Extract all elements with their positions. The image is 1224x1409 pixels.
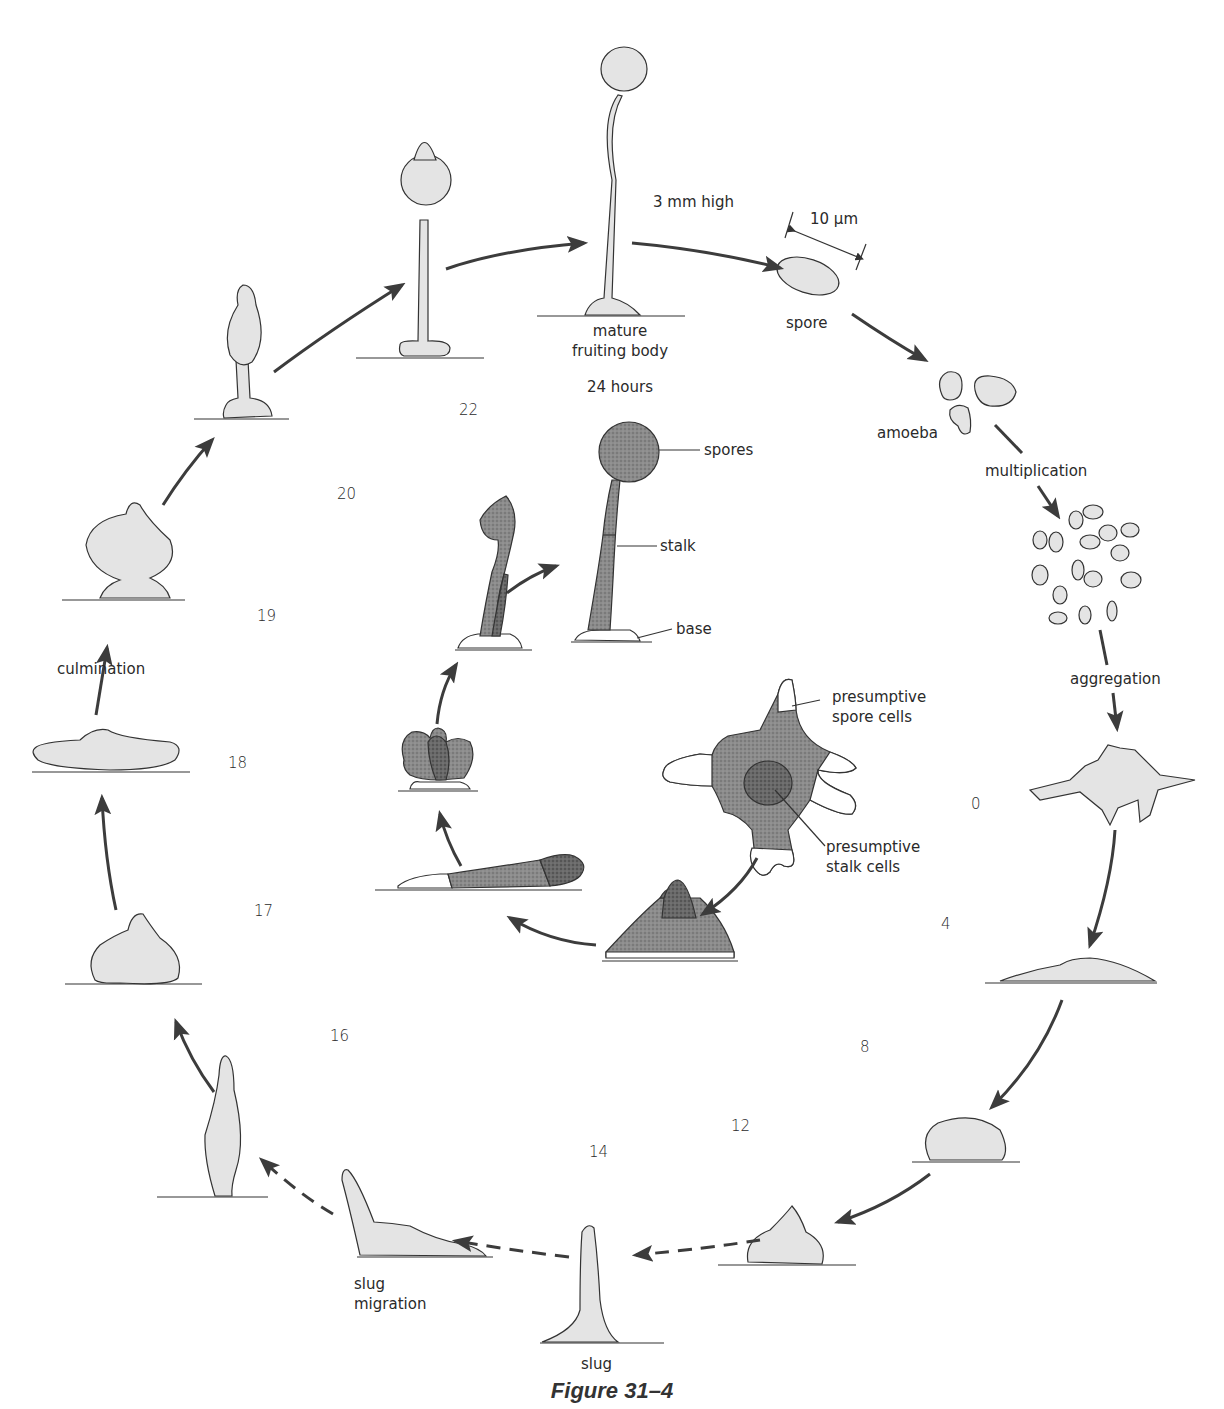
hour-14: 14 [589,1143,608,1161]
height-label: 3 mm high [653,193,734,211]
stage-4 [985,958,1157,983]
stage-12 [718,1206,856,1265]
time-24-hours: 24 hours [560,378,680,396]
stage-18 [32,729,190,772]
stalk-label: stalk [660,537,696,555]
hour-4: 4 [941,915,951,933]
hour-8: 8 [860,1038,870,1056]
presumptive-spore-label-line2: spore cells [832,708,912,726]
amoeba-label: amoeba [877,424,938,442]
culmination-label: culmination [57,660,145,678]
hour-20: 20 [337,485,356,503]
hour-12: 12 [731,1117,750,1135]
stage-20 [194,285,289,419]
base-label: base [676,620,712,638]
hour-18: 18 [228,754,247,772]
slug-migration-label-line2: migration [354,1295,426,1313]
stage-8 [912,1118,1020,1162]
stage-mature-fruiting-body [537,47,685,316]
mature-label-line1: mature [560,322,680,340]
stage-slug [540,1226,664,1343]
stage-22 [356,143,484,359]
spore-label: spore [786,314,828,332]
stage-multiplied-amoebae [1032,505,1141,624]
slug-label: slug [581,1355,612,1373]
stage-19 [62,503,185,600]
stage-17 [65,914,202,984]
life-cycle-diagram [0,0,1224,1409]
figure-caption: Figure 31–4 [0,1378,1224,1404]
aggregation-label: aggregation [1070,670,1161,688]
mature-label-line2: fruiting body [550,342,690,360]
spores-label: spores [704,441,753,459]
presumptive-stalk-label-line1: presumptive [826,838,920,856]
inner-tipped-mound [602,880,738,961]
hour-17: 17 [254,902,273,920]
stage-aggregation-streams [1030,745,1195,825]
inner-mature-fruiting-body [571,422,700,642]
stage-amoebae [940,372,1016,434]
multiplication-label: multiplication [985,462,1087,480]
inner-mexican-hat [398,728,478,791]
hour-0: 0 [971,795,981,813]
stage-16 [157,1056,268,1197]
inner-early-culminant [455,496,532,650]
inner-slug [375,855,584,890]
scale-bar-label: 10 μm [810,210,858,228]
hour-22: 22 [459,401,478,419]
presumptive-stalk-label-line2: stalk cells [826,858,900,876]
inner-stages [375,422,856,961]
outer-stages [32,47,1195,1343]
presumptive-spore-label-line1: presumptive [832,688,926,706]
hour-16: 16 [330,1027,349,1045]
slug-migration-label-line1: slug [354,1275,385,1293]
hour-19: 19 [257,607,276,625]
stage-spore [772,250,843,302]
